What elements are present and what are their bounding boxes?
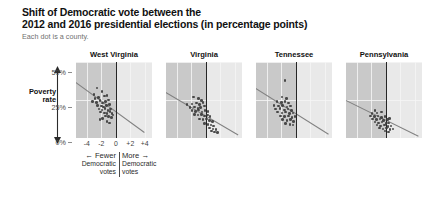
chart-figure: Shift of Democratic vote between the 201… <box>0 0 447 199</box>
data-point <box>202 101 205 104</box>
data-point <box>387 131 390 134</box>
data-point <box>193 113 196 116</box>
data-point <box>279 107 282 110</box>
data-point <box>198 118 201 121</box>
x-tick-+4: +4 <box>141 140 149 147</box>
data-point <box>289 123 292 126</box>
data-point <box>216 131 219 134</box>
gridline-horizontal <box>76 62 152 63</box>
panel-title: Tennessee <box>256 50 332 59</box>
data-point <box>390 125 393 128</box>
y-tick-25: 25% <box>52 103 72 112</box>
data-point <box>193 106 196 109</box>
gridline-horizontal <box>166 62 242 63</box>
data-point <box>110 116 113 119</box>
data-point <box>203 122 206 125</box>
panel-title: Virginia <box>166 50 242 59</box>
x-axis-ticks: -4-20+2+4 <box>76 140 152 150</box>
x-axis-annotation-left: ← Fewer Democratic votes <box>60 152 116 176</box>
chart-title: Shift of Democratic vote between the 201… <box>22 6 352 30</box>
x-tick--4: -4 <box>84 140 90 147</box>
chart-title-line2: 2012 and 2016 presidential elections (in… <box>22 18 352 30</box>
x-axis-annotation-right: More → Democratic votes <box>122 152 178 176</box>
data-point <box>108 122 111 125</box>
panel-title: Pennsylvania <box>346 50 422 59</box>
data-point <box>192 96 195 99</box>
data-point <box>104 107 107 110</box>
x-tick-0: 0 <box>114 140 118 147</box>
y-axis-ticks: 50% 25% 0% <box>30 60 72 142</box>
data-point <box>284 122 287 125</box>
zero-reference-line <box>206 62 207 138</box>
data-point <box>96 104 99 107</box>
data-point <box>284 100 287 103</box>
data-point <box>207 110 210 113</box>
gridline-horizontal <box>256 100 332 101</box>
gridline-horizontal <box>76 100 152 101</box>
plot-area <box>256 62 332 138</box>
data-point <box>279 115 282 118</box>
data-point <box>101 117 104 120</box>
x-axis-right-arrow-icon: More → <box>122 152 178 160</box>
gridline-horizontal <box>346 62 422 63</box>
chart-title-line1: Shift of Democratic vote between the <box>22 6 201 18</box>
data-point <box>108 103 111 106</box>
plot-area <box>76 62 152 138</box>
plot-area <box>166 62 242 138</box>
zero-reference-line <box>296 62 297 138</box>
x-axis-left-arrow-icon: ← Fewer <box>60 152 116 160</box>
data-point <box>211 120 214 123</box>
data-point <box>197 109 200 112</box>
data-point <box>94 97 97 100</box>
data-point <box>392 128 395 131</box>
data-point <box>387 122 390 125</box>
gridline-horizontal <box>346 100 422 101</box>
data-point <box>212 125 215 128</box>
data-point <box>281 104 284 107</box>
zero-reference-line <box>116 62 117 138</box>
x-tick-+2: +2 <box>126 140 134 147</box>
data-point <box>186 103 189 106</box>
data-point <box>388 117 391 120</box>
chart-subtitle: Each dot is a county. <box>22 32 89 41</box>
x-axis-annotation: ← Fewer Democratic votes More → Democrat… <box>60 152 180 182</box>
x-tick--2: -2 <box>98 140 104 147</box>
x-axis-annotation-divider <box>119 152 120 177</box>
y-tick-0: 0% <box>56 138 72 147</box>
plot-area <box>346 62 422 138</box>
data-point <box>287 115 290 118</box>
y-tick-50: 50% <box>52 68 72 77</box>
panel-title: West Virginia <box>76 50 152 59</box>
data-point <box>207 123 210 126</box>
data-point <box>292 120 295 123</box>
data-point <box>284 79 287 82</box>
data-point <box>369 115 372 118</box>
gridline-horizontal <box>256 62 332 63</box>
data-point <box>91 100 94 103</box>
